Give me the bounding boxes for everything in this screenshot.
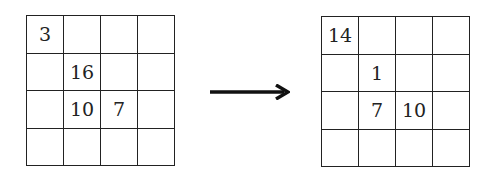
- grid-cell: [396, 130, 433, 168]
- before-grid: 316107: [26, 15, 175, 166]
- grid-cell: [396, 55, 433, 93]
- grid-cell: [101, 129, 138, 167]
- grid-cell: 7: [359, 92, 396, 130]
- grid-cell: 7: [101, 91, 138, 129]
- grid-cell: [433, 17, 470, 55]
- grid-cell: [322, 55, 359, 93]
- grid-cell: [64, 129, 101, 167]
- grid-cell: 16: [64, 54, 101, 92]
- grid-cell: [27, 91, 64, 129]
- right-arrow-icon: [210, 84, 290, 100]
- grid-cell: [359, 17, 396, 55]
- grid-cell: [396, 17, 433, 55]
- grid-cell: 3: [27, 16, 64, 54]
- grid-cell: [138, 54, 175, 92]
- grid-cell: [433, 130, 470, 168]
- grid-cell: [101, 16, 138, 54]
- grid-cell: [359, 130, 396, 168]
- grid-cell: [27, 129, 64, 167]
- grid-cell: [322, 130, 359, 168]
- grid-cell: [138, 16, 175, 54]
- grid-cell: [101, 54, 138, 92]
- grid-cell: [64, 16, 101, 54]
- grid-cell: 1: [359, 55, 396, 93]
- grid-cell: [138, 129, 175, 167]
- grid-cell: [322, 92, 359, 130]
- grid-cell: 10: [396, 92, 433, 130]
- after-grid: 141710: [321, 16, 470, 167]
- grid-cell: [433, 55, 470, 93]
- grid-cell: [138, 91, 175, 129]
- grid-cell: [433, 92, 470, 130]
- grid-cell: [27, 54, 64, 92]
- grid-cell: 10: [64, 91, 101, 129]
- grid-cell: 14: [322, 17, 359, 55]
